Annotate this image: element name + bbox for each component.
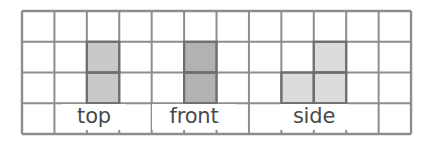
shaded-cell-side bbox=[314, 73, 346, 104]
shaded-cell-side bbox=[281, 73, 313, 104]
figure-container: topfrontside bbox=[0, 0, 426, 146]
shaded-cell-front bbox=[184, 73, 216, 104]
grid-label-side: side bbox=[280, 104, 348, 130]
grid-label-top: top bbox=[62, 104, 126, 130]
shaded-cell-top bbox=[87, 42, 119, 73]
shaded-cell-top bbox=[87, 73, 119, 104]
shaded-cell-side bbox=[314, 42, 346, 73]
shaded-cell-front bbox=[184, 42, 216, 73]
grid-label-front: front bbox=[152, 104, 236, 130]
